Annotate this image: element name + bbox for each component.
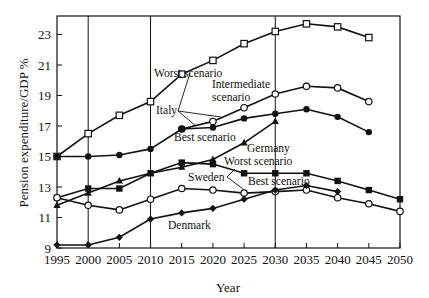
x-tick-label: 2035 — [293, 252, 319, 267]
annotation-label: Intermediate — [212, 78, 270, 90]
filled-circle-marker — [210, 124, 216, 130]
open-circle-marker — [334, 85, 340, 91]
open-square-marker — [85, 130, 91, 136]
series-denmark — [53, 182, 341, 249]
annotation-label: Worst scenario — [224, 155, 293, 167]
y-axis-title: Pension expenditure/GDP % — [16, 58, 31, 207]
annotation-label: Germany — [247, 142, 290, 155]
open-circle-marker — [366, 201, 372, 207]
x-tick-label: 2040 — [325, 252, 351, 267]
open-circle-marker — [366, 98, 372, 104]
open-circle-marker — [334, 194, 340, 200]
annotation-pointer — [227, 177, 243, 189]
open-square-marker — [366, 34, 372, 40]
filled-triangle-marker — [272, 117, 279, 124]
y-tick-label: 11 — [38, 210, 51, 225]
y-tick-label: 21 — [38, 58, 51, 73]
open-circle-marker — [179, 185, 185, 191]
open-circle-marker — [85, 202, 91, 208]
x-axis-title: Year — [216, 280, 241, 295]
filled-diamond-marker — [334, 188, 341, 195]
x-tick-label: 2050 — [387, 252, 413, 267]
filled-square-marker — [85, 185, 91, 191]
open-circle-marker — [54, 194, 60, 200]
open-circle-marker — [116, 207, 122, 213]
annotation-label: Best scenario — [248, 175, 310, 187]
open-circle-marker — [241, 105, 247, 111]
open-square-marker — [272, 28, 278, 34]
annotation-label: Italy — [156, 104, 177, 117]
open-circle-marker — [210, 187, 216, 193]
annotation-label: Best scenario — [174, 131, 236, 143]
filled-circle-marker — [334, 114, 340, 120]
filled-square-marker — [116, 185, 122, 191]
x-tick-label: 2015 — [169, 252, 195, 267]
filled-square-marker — [210, 161, 216, 167]
y-tick-label: 17 — [38, 119, 52, 134]
open-circle-marker — [147, 196, 153, 202]
x-tick-label: 2020 — [200, 252, 226, 267]
filled-circle-marker — [241, 115, 247, 121]
filled-circle-marker — [303, 106, 309, 112]
x-tick-label: 2010 — [138, 252, 164, 267]
open-circle-marker — [397, 208, 403, 214]
filled-diamond-marker — [209, 205, 216, 212]
filled-circle-marker — [85, 153, 91, 159]
x-tick-label: 2005 — [106, 252, 132, 267]
open-square-marker — [303, 21, 309, 27]
filled-square-marker — [147, 170, 153, 176]
open-square-marker — [147, 98, 153, 104]
annotation-label: scenario — [212, 91, 251, 103]
filled-diamond-marker — [240, 196, 247, 203]
filled-circle-marker — [366, 129, 372, 135]
open-square-marker — [116, 112, 122, 118]
open-circle-marker — [272, 91, 278, 97]
filled-square-marker — [334, 178, 340, 184]
open-circle-marker — [210, 118, 216, 124]
filled-square-marker — [179, 159, 185, 165]
open-circle-marker — [303, 83, 309, 89]
open-square-marker — [241, 40, 247, 46]
filled-circle-marker — [54, 153, 60, 159]
pension-expenditure-chart: 1995200020052010201520202025203020352040… — [0, 0, 429, 298]
x-tick-label: 2000 — [75, 252, 101, 267]
open-square-marker — [210, 57, 216, 63]
open-square-marker — [334, 24, 340, 30]
filled-circle-marker — [116, 152, 122, 158]
filled-square-marker — [397, 196, 403, 202]
x-tick-label: 2045 — [356, 252, 382, 267]
annotation-label: Sweden — [188, 171, 225, 183]
annotation-label: Denmark — [168, 219, 211, 231]
series-line — [57, 189, 400, 212]
chart-canvas: 1995200020052010201520202025203020352040… — [0, 0, 429, 298]
series-line — [57, 186, 338, 246]
filled-circle-marker — [272, 111, 278, 117]
series-line — [57, 163, 400, 200]
filled-diamond-marker — [116, 234, 123, 241]
axis-ticks: 1995200020052010201520202025203020352040… — [38, 27, 413, 267]
filled-diamond-marker — [178, 209, 185, 216]
y-tick-label: 13 — [38, 180, 51, 195]
y-tick-label: 15 — [38, 149, 51, 164]
y-tick-label: 9 — [45, 241, 52, 256]
series-sweden-best-scenario — [54, 185, 403, 214]
filled-circle-marker — [147, 146, 153, 152]
filled-square-marker — [241, 170, 247, 176]
x-tick-label: 2030 — [262, 252, 288, 267]
filled-diamond-marker — [147, 215, 154, 222]
x-tick-label: 2025 — [231, 252, 257, 267]
filled-square-marker — [366, 187, 372, 193]
open-circle-marker — [241, 190, 247, 196]
y-tick-label: 19 — [38, 88, 51, 103]
y-tick-label: 23 — [38, 27, 51, 42]
